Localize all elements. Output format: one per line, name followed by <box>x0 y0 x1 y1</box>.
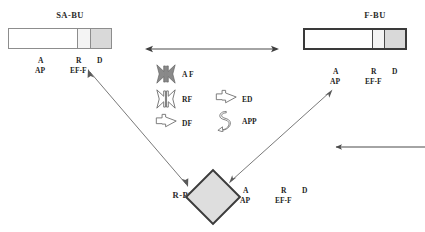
double-inward-arrow-outline-icon <box>155 88 177 110</box>
right-arrow-outline-icon <box>215 88 237 110</box>
legend-label-df: DF <box>182 119 192 128</box>
right-arrow-outline-icon <box>155 112 177 134</box>
legend-label-rf: RF <box>182 95 192 104</box>
legend-label-ed: ED <box>242 95 252 104</box>
curved-recycle-arrow-icon <box>215 110 237 132</box>
legend: A F RF DF <box>0 0 425 232</box>
double-inward-arrow-filled-icon <box>155 63 177 85</box>
legend-item-af[interactable]: A F <box>155 63 193 85</box>
legend-item-df[interactable]: DF <box>155 112 192 134</box>
legend-item-rf[interactable]: RF <box>155 88 192 110</box>
diagram-canvas: SA-BU A R D AP EF-F F-BU A R D AP EF-F <box>0 0 425 232</box>
legend-item-ed[interactable]: ED <box>215 88 252 110</box>
legend-label-af: A F <box>182 70 193 79</box>
legend-label-app: APP <box>242 117 257 126</box>
legend-item-app[interactable]: APP <box>215 110 257 132</box>
